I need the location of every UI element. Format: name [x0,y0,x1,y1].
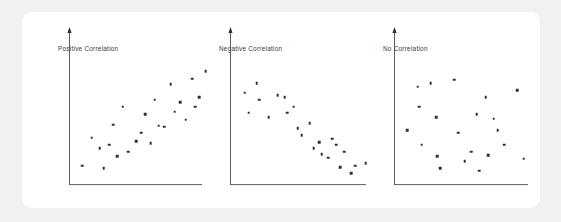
data-point [116,155,119,158]
data-point [170,83,173,86]
data-point [135,140,138,143]
data-point [286,111,289,114]
data-point [430,82,433,85]
data-point [163,126,166,129]
data-point [112,123,115,126]
data-point [98,147,101,150]
data-point [153,98,156,101]
data-point [436,155,439,158]
data-point [127,150,130,153]
data-point [364,162,367,165]
data-point [503,143,506,146]
plot-area-negative-correlation [208,12,366,208]
data-point [478,169,481,172]
data-point [283,96,286,99]
data-point [416,85,419,88]
data-point [496,129,499,132]
data-point [179,101,182,104]
data-point [301,134,304,137]
data-point [198,96,201,99]
data-point [435,116,438,119]
data-point [354,165,357,168]
data-point [457,132,460,135]
data-point [406,129,409,132]
data-point [516,89,519,92]
data-point [108,143,111,146]
data-point [327,156,330,159]
data-point [470,150,473,153]
data-point [331,137,334,140]
data-point [149,142,152,145]
data-point [191,77,194,80]
data-point [320,153,323,156]
data-point [204,70,207,73]
data-point [293,106,296,109]
data-point [277,94,280,97]
data-point [267,116,270,119]
data-point [453,78,456,81]
data-point [420,143,423,146]
data-point [297,127,300,130]
figure-card: Positive Correlation Negative Correlatio… [22,12,540,208]
plot-area-positive-correlation [47,12,202,208]
chart-panel-positive-correlation: Positive Correlation [47,12,202,208]
data-point [81,165,84,168]
data-point [144,113,147,116]
data-point [485,96,488,99]
data-point [247,111,250,114]
data-point [174,110,177,113]
plot-area-no-correlation [372,12,528,208]
data-point [194,106,197,109]
data-point [487,154,490,157]
scatter-correlation-figure: Positive Correlation Negative Correlatio… [0,0,561,222]
chart-panel-no-correlation: No Correlation [372,12,528,208]
data-point [121,106,124,109]
data-point [492,117,495,120]
data-point [523,157,526,160]
data-point [103,167,106,170]
data-point [439,167,442,170]
data-point [90,136,93,139]
data-point [313,147,316,150]
data-point [464,160,467,163]
data-point [339,166,342,169]
data-point [318,141,321,144]
data-point [184,119,187,122]
data-point [343,150,346,153]
data-point [243,91,246,94]
data-point [140,132,143,135]
data-point [475,113,478,116]
data-point [255,82,258,85]
chart-panel-negative-correlation: Negative Correlation [208,12,366,208]
data-point [350,172,353,175]
data-point [157,124,160,127]
data-point [258,98,261,101]
data-point [418,106,421,109]
data-point [335,143,338,146]
data-point [309,122,312,125]
